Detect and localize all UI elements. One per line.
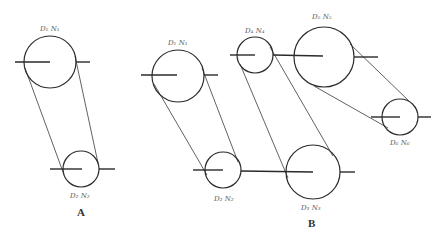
pulley-diagram: D₁ N₁ D₂ N₂ A D₁ N₁ (0, 0, 442, 243)
label-b1: D₁ N₁ (167, 39, 188, 47)
pulley-diagram-svg: D₁ N₁ D₂ N₂ A D₁ N₁ (0, 0, 442, 243)
group-label-b: B (308, 217, 316, 229)
shaft-b4b5-connector (273, 55, 323, 56)
belt-b12-left (154, 84, 207, 175)
belt-b43-left (240, 64, 288, 178)
label-b3: D₃ N₃ (300, 204, 321, 212)
belt-a-left (25, 68, 63, 172)
pulley-b5 (294, 27, 354, 87)
label-a2: D₂ N₂ (69, 192, 90, 200)
belt-a-right (75, 56, 98, 163)
pulley-b1 (152, 50, 204, 102)
drive-b: D₁ N₁ D₂ N₂ D₃ N₃ D₄ N₄ D₅ N₅ D₆ N₆ (141, 13, 431, 229)
label-b4: D₄ N₄ (244, 27, 265, 35)
belt-b56-lower (314, 86, 388, 128)
group-label-a: A (77, 206, 85, 218)
shaft-b2b3-connector (241, 171, 313, 172)
drive-a: D₁ N₁ D₂ N₂ A (15, 25, 115, 218)
belt-b43-right (270, 47, 333, 156)
label-b6: D₆ N₆ (389, 139, 410, 147)
belt-b12-right (202, 68, 238, 162)
label-a1: D₁ N₁ (39, 25, 60, 33)
label-b5: D₅ N₅ (311, 13, 332, 21)
belt-b56-upper (350, 44, 410, 102)
label-b2: D₂ N₂ (213, 195, 234, 203)
